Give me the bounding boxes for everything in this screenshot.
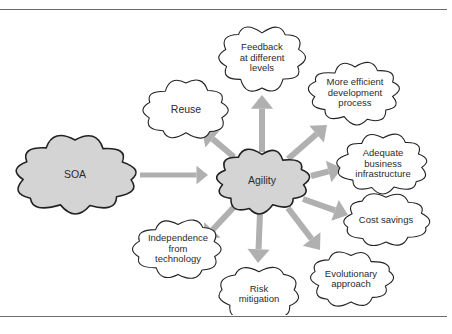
cloud-evolutionary-approach xyxy=(311,252,394,306)
cloud-more-efficient-development xyxy=(308,62,399,125)
cloud-reuse xyxy=(143,80,228,138)
arrow-soa-to-agility xyxy=(140,166,208,185)
arrow-agility-to-evolutionary-approach xyxy=(288,208,320,250)
arrow-agility-to-more-efficient-development xyxy=(288,125,327,159)
figure-container: SOAFeedback at different levelsMore effi… xyxy=(0,0,452,334)
arrow-agility-to-risk-mitigation xyxy=(247,213,269,263)
arrow-agility-to-feedback xyxy=(251,95,273,152)
cloud-agility xyxy=(217,149,310,214)
diagram-svg xyxy=(0,11,452,315)
diagram-canvas: SOAFeedback at different levelsMore effi… xyxy=(0,11,452,315)
cloud-cost-savings xyxy=(344,194,430,246)
cloud-soa xyxy=(16,136,136,214)
cloud-independence-from-technology xyxy=(132,220,221,278)
figure-bottom-rule xyxy=(0,316,447,317)
cloud-adequate-business-infrastructure xyxy=(337,134,427,194)
figure-top-rule xyxy=(0,9,447,10)
cloud-risk-mitigation xyxy=(219,267,298,315)
figure-caption xyxy=(6,323,446,334)
cloud-feedback xyxy=(219,27,306,91)
arrow-agility-to-cost-savings xyxy=(303,199,348,221)
